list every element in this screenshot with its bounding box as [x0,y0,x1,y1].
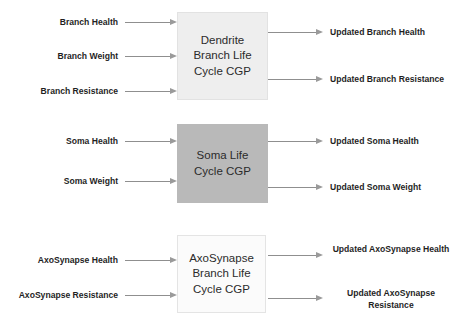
output-label-updated-branch-health: Updated Branch Health [330,27,425,39]
arrow-axosynapse-resistance-in [125,292,177,299]
process-box-soma: Soma Life Cycle CGP [177,124,268,203]
box-dendrite-line-3: Cycle CGP [194,64,251,80]
arrow-updated-branch-health-out [268,29,323,36]
output-label-updated-soma-weight: Updated Soma Weight [330,182,421,194]
box-axosynapse-line-2: Branch Life [192,266,250,282]
arrow-updated-axosynapse-resistance-out [268,295,323,302]
output-label-updated-branch-resistance: Updated Branch Resistance [330,74,444,86]
box-soma-line-1: Soma Life [197,148,249,164]
output-label-updated-axosynapse-health: Updated AxoSynapse Health [330,244,452,256]
box-soma-line-2: Cycle CGP [194,164,251,180]
input-label-soma-health: Soma Health [66,136,118,148]
input-label-branch-resistance: Branch Resistance [41,86,118,98]
block-diagram: Branch Health Branch Weight Branch Resis… [0,0,459,332]
box-dendrite-line-2: Branch Life [193,48,251,64]
arrow-branch-health-in [125,19,177,26]
arrow-soma-health-in [125,138,177,145]
input-label-branch-health: Branch Health [60,17,118,29]
process-box-dendrite: Dendrite Branch Life Cycle CGP [177,12,268,100]
arrow-updated-axosynapse-health-out [268,252,323,259]
arrow-updated-branch-resistance-out [268,76,323,83]
arrow-soma-weight-in [125,178,177,185]
arrow-updated-soma-health-out [268,138,323,145]
arrow-branch-weight-in [125,53,177,60]
output-label-updated-soma-health: Updated Soma Health [330,136,419,148]
box-dendrite-line-1: Dendrite [201,33,244,49]
arrow-axosynapse-health-in [125,257,177,264]
input-label-axosynapse-health: AxoSynapse Health [38,255,118,267]
arrow-branch-resistance-in [125,88,177,95]
input-label-soma-weight: Soma Weight [64,176,118,188]
input-label-axosynapse-resistance: AxoSynapse Resistance [19,290,118,302]
output-label-updated-axosynapse-resistance: Updated AxoSynapse Resistance [330,288,452,311]
box-axosynapse-line-3: Cycle CGP [193,282,250,298]
arrow-updated-soma-weight-out [268,184,323,191]
process-box-axosynapse: AxoSynapse Branch Life Cycle CGP [177,235,266,313]
input-label-branch-weight: Branch Weight [58,51,118,63]
box-axosynapse-line-1: AxoSynapse [189,251,254,267]
